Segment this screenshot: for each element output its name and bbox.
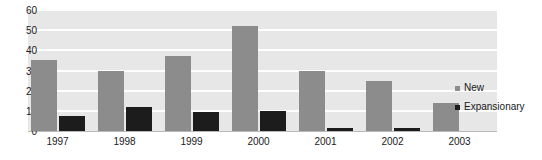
- bar-new-1998: [98, 71, 124, 132]
- bar-expansionary-1998: [126, 107, 152, 131]
- x-axis-tick-label: 1999: [180, 136, 202, 147]
- x-axis-tick-label: 1998: [113, 136, 135, 147]
- bar-expansionary-1997: [59, 116, 85, 131]
- bar-group: [296, 10, 366, 131]
- x-axis-tick-label: 2003: [448, 136, 470, 147]
- bar-group: [95, 10, 165, 131]
- bar-group: [229, 10, 299, 131]
- bar-group: [430, 10, 500, 131]
- square-marker-gray-icon: [455, 86, 460, 91]
- bar-expansionary-1999: [193, 112, 219, 131]
- x-axis-tick-label: 2001: [314, 136, 336, 147]
- legend-label: Expansionary: [464, 102, 525, 112]
- x-axis-tick-label: 2000: [247, 136, 269, 147]
- bar-group: [162, 10, 232, 131]
- bar-series-container: [28, 10, 497, 131]
- bar-new-2002: [366, 81, 392, 131]
- bar-group: [28, 10, 98, 131]
- chart-title: [28, 0, 498, 3]
- legend-label: New: [464, 83, 484, 93]
- bar-expansionary-2002: [394, 128, 420, 131]
- x-axis-line: [28, 131, 497, 132]
- square-marker-black-icon: [455, 105, 460, 110]
- bar-expansionary-2000: [260, 111, 286, 131]
- bar-chart: 0102030405060 19971998199920002001200220…: [0, 0, 542, 160]
- bar-new-2001: [299, 71, 325, 132]
- legend-item-new: New: [455, 83, 525, 93]
- legend-item-expansionary: Expansionary: [455, 102, 525, 112]
- bar-new-1997: [31, 60, 57, 131]
- x-axis-tick-label: 1997: [46, 136, 68, 147]
- bar-new-1999: [165, 56, 191, 131]
- x-axis-tick-label: 2002: [381, 136, 403, 147]
- bar-group: [363, 10, 433, 131]
- chart-legend: New Expansionary: [455, 83, 525, 112]
- bar-expansionary-2001: [327, 128, 353, 131]
- bar-new-2000: [232, 26, 258, 131]
